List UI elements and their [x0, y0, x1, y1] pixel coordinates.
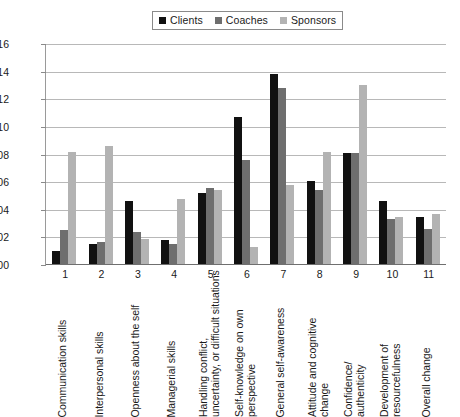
bar-clients — [125, 201, 133, 265]
bar-sponsors — [214, 190, 222, 265]
x-axis-number: 8 — [300, 267, 336, 283]
chart-legend: Clients Coaches Sponsors — [152, 11, 343, 30]
bar-clients — [416, 217, 424, 265]
bar-coaches — [60, 230, 68, 265]
bar-coaches — [97, 242, 105, 265]
x-axis-number: 2 — [81, 267, 117, 283]
x-axis-label: Confidence/authenticity — [343, 362, 366, 417]
bar-group — [410, 44, 446, 265]
bar-coaches — [387, 219, 395, 265]
y-axis-tick-label: 0,10 — [0, 122, 9, 132]
x-axis-number: 9 — [336, 267, 372, 283]
bar-coaches — [206, 188, 214, 265]
bar-groups — [46, 44, 446, 265]
x-axis-label: Handling conflict,uncertainty, or diffic… — [197, 270, 220, 417]
x-axis-label: Development ofresourcefulness — [379, 344, 402, 417]
x-axis-line — [46, 264, 446, 266]
bar-group — [337, 44, 373, 265]
x-axis-numbers: 1234567891011 — [45, 267, 445, 283]
bar-sponsors — [323, 152, 331, 265]
x-axis-label: Managerial skills — [167, 340, 179, 417]
bar-sponsors — [177, 199, 185, 265]
x-axis-label-cell: Handling conflict,uncertainty, or diffic… — [190, 284, 226, 417]
y-axis-tick-label: 0,16 — [0, 39, 9, 49]
x-axis-label: Openness about the self — [130, 304, 142, 417]
x-axis-label: General self-awareness — [276, 307, 288, 417]
bar-clients — [270, 74, 278, 265]
bar-clients — [307, 181, 315, 265]
bar-sponsors — [250, 247, 258, 265]
x-axis-number: 7 — [263, 267, 299, 283]
bar-clients — [89, 244, 97, 265]
bar-coaches — [315, 190, 323, 265]
y-axis-tick-label: 0,14 — [0, 67, 9, 77]
x-axis-label-cell: Self-knowledge on ownperspective — [227, 284, 263, 417]
x-axis-number: 1 — [45, 267, 81, 283]
bar-coaches — [351, 153, 359, 265]
bar-sponsors — [68, 152, 76, 265]
x-axis-label: Self-knowledge on ownperspective — [233, 309, 256, 417]
bar-group — [264, 44, 300, 265]
x-axis-label-cell: Confidence/authenticity — [336, 284, 372, 417]
bar-sponsors — [395, 217, 403, 265]
legend-swatch-sponsors — [280, 17, 287, 24]
bar-chart: Clients Coaches Sponsors 0,160,140,120,1… — [0, 0, 460, 417]
y-axis-tick — [41, 265, 46, 266]
bar-clients — [379, 201, 387, 265]
x-axis-label-cell: Attitude and cognitivechange — [300, 284, 336, 417]
legend-item-coaches: Coaches — [215, 14, 268, 26]
x-axis-number: 11 — [409, 267, 445, 283]
x-axis-number: 10 — [372, 267, 408, 283]
x-axis-number: 3 — [118, 267, 154, 283]
bar-sponsors — [359, 85, 367, 265]
bar-group — [155, 44, 191, 265]
bar-group — [228, 44, 264, 265]
bar-sponsors — [141, 239, 149, 265]
plot-area — [45, 44, 445, 265]
x-axis-label-cell: General self-awareness — [263, 284, 299, 417]
bar-clients — [161, 240, 169, 265]
x-axis-label-cell: Managerial skills — [154, 284, 190, 417]
x-axis-label: Overall change — [421, 347, 433, 417]
bar-clients — [234, 117, 242, 265]
bar-coaches — [169, 244, 177, 265]
legend-item-sponsors: Sponsors — [280, 14, 336, 26]
y-axis-tick-label: 0,06 — [0, 177, 9, 187]
bar-clients — [343, 153, 351, 265]
legend-label-clients: Clients — [170, 14, 203, 26]
x-axis-label-cell: Development ofresourcefulness — [372, 284, 408, 417]
x-axis-label: Communication skills — [57, 319, 69, 417]
x-axis-label-cell: Openness about the self — [118, 284, 154, 417]
x-axis-label-cell: Communication skills — [45, 284, 81, 417]
bar-group — [301, 44, 337, 265]
legend-swatch-clients — [159, 17, 166, 24]
bar-clients — [198, 193, 206, 265]
legend-label-sponsors: Sponsors — [291, 14, 336, 26]
bar-coaches — [424, 229, 432, 265]
y-axis-tick-label: 0,00 — [0, 260, 9, 270]
bar-coaches — [242, 160, 250, 265]
bar-group — [82, 44, 118, 265]
y-axis-tick-label: 0,08 — [0, 150, 9, 160]
x-axis-label: Interpersonal skills — [94, 331, 106, 417]
bar-group — [46, 44, 82, 265]
legend-label-coaches: Coaches — [226, 14, 268, 26]
legend-item-clients: Clients — [159, 14, 203, 26]
x-axis-category-labels: Communication skillsInterpersonal skills… — [45, 284, 445, 417]
bar-group — [373, 44, 409, 265]
bar-coaches — [278, 88, 286, 265]
bar-group — [119, 44, 155, 265]
x-axis-label-cell: Overall change — [409, 284, 445, 417]
legend-swatch-coaches — [215, 17, 222, 24]
bar-sponsors — [432, 214, 440, 265]
y-axis-tick-label: 0,12 — [0, 94, 9, 104]
x-axis-number: 6 — [227, 267, 263, 283]
y-axis-tick-label: 0,02 — [0, 232, 9, 242]
bar-sponsors — [286, 185, 294, 265]
bar-sponsors — [105, 146, 113, 265]
x-axis-number: 4 — [154, 267, 190, 283]
y-axis-tick-label: 0,04 — [0, 205, 9, 215]
bar-coaches — [133, 232, 141, 265]
x-axis-label-cell: Interpersonal skills — [81, 284, 117, 417]
bar-group — [191, 44, 227, 265]
